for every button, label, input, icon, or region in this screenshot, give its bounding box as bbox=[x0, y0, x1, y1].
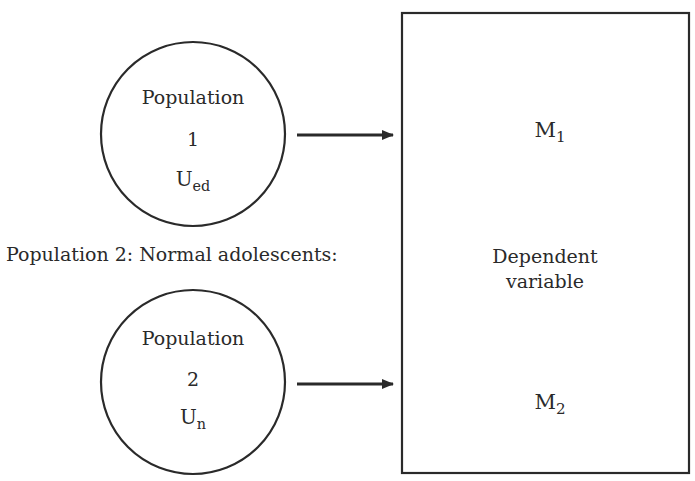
mean-2-symbol: M bbox=[534, 390, 556, 414]
population-2-mean: Un bbox=[113, 405, 273, 429]
population-2-mean-subscript: n bbox=[197, 416, 206, 432]
mean-2-label: M2 bbox=[470, 390, 630, 414]
mean-2-subscript: 2 bbox=[556, 400, 566, 418]
mean-1-subscript: 1 bbox=[556, 128, 566, 146]
mean-1-label: M1 bbox=[470, 118, 630, 142]
population-1-mean-subscript: ed bbox=[193, 178, 211, 194]
population-2-caption: Population 2: Normal adolescents: bbox=[6, 243, 338, 265]
dependent-variable-label-line2: variable bbox=[465, 270, 625, 292]
population-2-mean-symbol: U bbox=[180, 405, 197, 429]
population-1-mean: Ued bbox=[113, 167, 273, 191]
dependent-variable-label-line1: Dependent bbox=[465, 245, 625, 267]
population-1-mean-symbol: U bbox=[176, 167, 193, 191]
population-2-number: 2 bbox=[113, 368, 273, 390]
population-1-number: 1 bbox=[113, 128, 273, 150]
mean-1-symbol: M bbox=[534, 118, 556, 142]
population-2-title: Population bbox=[113, 327, 273, 349]
population-1-title: Population bbox=[113, 86, 273, 108]
